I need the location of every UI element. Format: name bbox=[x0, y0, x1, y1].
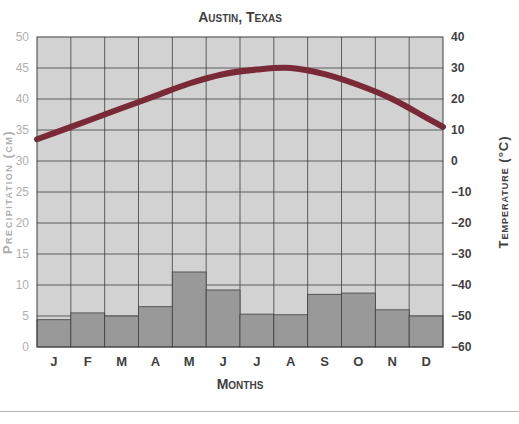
right-tick-label: 10 bbox=[451, 123, 465, 137]
left-tick-label: 35 bbox=[16, 123, 30, 137]
left-tick-label: 50 bbox=[16, 30, 30, 44]
left-tick-label: 5 bbox=[22, 309, 29, 323]
precipitation-bar bbox=[37, 320, 71, 347]
month-tick-label: N bbox=[388, 354, 397, 369]
precipitation-bar bbox=[342, 293, 376, 347]
right-tick-label: −20 bbox=[451, 216, 472, 230]
right-tick-label: −30 bbox=[451, 247, 472, 261]
month-tick-label: J bbox=[50, 354, 57, 369]
right-tick-label: −10 bbox=[451, 185, 472, 199]
climate-chart: 05101520253035404550 −60−50−40−30−20−100… bbox=[0, 0, 519, 424]
left-axis-label: Precipitation (cm) bbox=[0, 130, 15, 254]
precipitation-bar bbox=[139, 307, 173, 347]
left-tick-label: 40 bbox=[16, 92, 30, 106]
precipitation-bar bbox=[105, 316, 139, 347]
precipitation-bar bbox=[71, 313, 105, 347]
month-tick-label: M bbox=[116, 354, 127, 369]
precipitation-bar bbox=[308, 294, 342, 347]
month-tick-label: O bbox=[353, 354, 363, 369]
month-tick-label: A bbox=[286, 354, 296, 369]
chart-title: Austin, Texas bbox=[198, 9, 282, 25]
left-axis-ticks: 05101520253035404550 bbox=[16, 30, 30, 354]
right-tick-label: −60 bbox=[451, 340, 472, 354]
precipitation-bar bbox=[409, 316, 443, 347]
month-tick-label: A bbox=[151, 354, 161, 369]
right-axis-ticks: −60−50−40−30−20−10010203040 bbox=[451, 30, 472, 354]
precipitation-bar bbox=[274, 315, 308, 347]
left-tick-label: 45 bbox=[16, 61, 30, 75]
right-tick-label: 30 bbox=[451, 61, 465, 75]
right-axis-label: Temperature (°C) bbox=[496, 135, 511, 248]
x-axis-ticks: JFMAMJJASOND bbox=[50, 354, 430, 369]
right-tick-label: 40 bbox=[451, 30, 465, 44]
right-tick-label: 20 bbox=[451, 92, 465, 106]
month-tick-label: S bbox=[320, 354, 329, 369]
month-tick-label: J bbox=[253, 354, 260, 369]
right-tick-label: 0 bbox=[451, 154, 458, 168]
left-tick-label: 25 bbox=[16, 185, 30, 199]
month-tick-label: D bbox=[421, 354, 430, 369]
left-tick-label: 15 bbox=[16, 247, 30, 261]
left-tick-label: 20 bbox=[16, 216, 30, 230]
left-tick-label: 0 bbox=[22, 340, 29, 354]
precipitation-bar bbox=[206, 290, 240, 347]
precipitation-bar bbox=[375, 310, 409, 347]
bottom-divider bbox=[0, 411, 519, 412]
month-tick-label: J bbox=[219, 354, 226, 369]
precipitation-bar bbox=[172, 272, 206, 347]
x-axis-label: Months bbox=[217, 376, 264, 392]
month-tick-label: M bbox=[184, 354, 195, 369]
right-tick-label: −50 bbox=[451, 309, 472, 323]
month-tick-label: F bbox=[84, 354, 92, 369]
left-tick-label: 10 bbox=[16, 278, 30, 292]
precipitation-bar bbox=[240, 314, 274, 347]
right-tick-label: −40 bbox=[451, 278, 472, 292]
left-tick-label: 30 bbox=[16, 154, 30, 168]
